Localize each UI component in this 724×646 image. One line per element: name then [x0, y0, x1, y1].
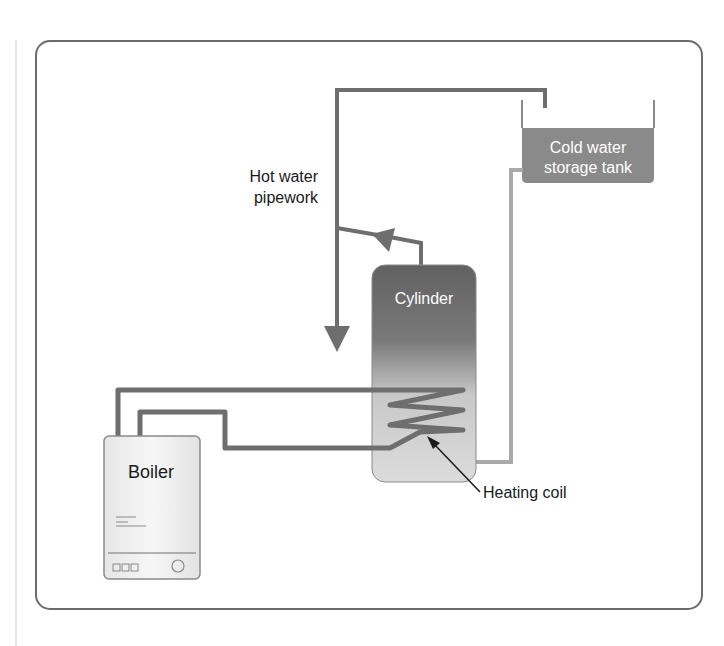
flow-arrow-icon	[372, 228, 395, 252]
hot-water-pipework-label-line1: Hot water	[250, 168, 319, 185]
hot-water-pipework-label-line2: pipework	[254, 189, 319, 206]
cold-water-storage-tank: Cold water storage tank	[522, 100, 654, 183]
cylinder-label: Cylinder	[395, 290, 454, 307]
heating-coil-label: Heating coil	[483, 484, 567, 501]
down-arrow-icon	[324, 326, 350, 352]
hot-water-system-diagram: Cold water storage tank Cylinder Heating…	[0, 0, 724, 646]
boiler-label: Boiler	[128, 462, 174, 482]
cold-tank-label-line2: storage tank	[544, 159, 633, 176]
cold-tank-label-line1: Cold water	[550, 139, 627, 156]
cold-feed-pipe	[475, 170, 523, 462]
boiler: Boiler	[104, 436, 200, 579]
